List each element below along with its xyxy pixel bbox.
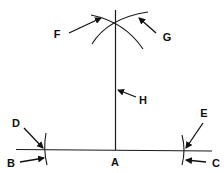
pointer-H — [118, 90, 136, 97]
arc-upper-right — [92, 12, 148, 44]
label-F: F — [54, 28, 61, 40]
arc-upper-left — [91, 15, 143, 49]
label-E: E — [200, 107, 207, 119]
label-C: C — [212, 157, 220, 169]
label-B: B — [7, 157, 15, 169]
label-A: A — [111, 156, 119, 168]
label-D: D — [12, 117, 20, 129]
pointer-B — [20, 158, 44, 162]
arc-right-base — [182, 135, 184, 165]
base-line — [16, 150, 212, 152]
label-H: H — [139, 94, 147, 106]
perpendicular-construction-diagram: F G H D B A E C — [0, 0, 224, 173]
label-G: G — [163, 31, 172, 43]
pointer-D — [24, 128, 43, 148]
pointer-G — [139, 18, 156, 33]
pointer-E — [186, 123, 203, 148]
pointer-F — [69, 18, 101, 33]
pointer-C — [186, 160, 206, 162]
arc-left-base — [45, 133, 47, 165]
